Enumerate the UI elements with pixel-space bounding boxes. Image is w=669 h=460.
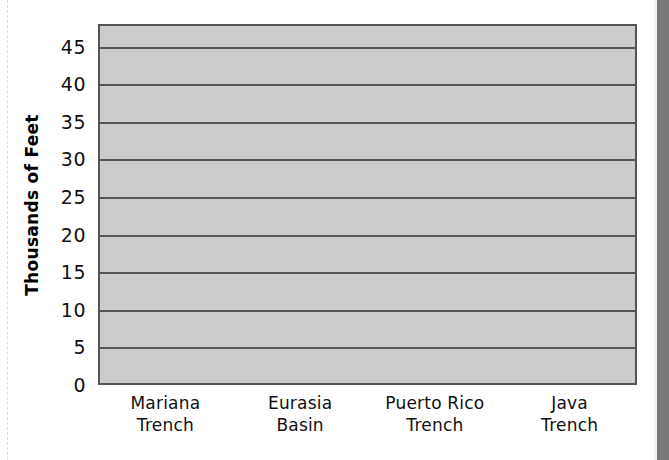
y-axis-tick-label: 15 [0,263,92,282]
y-axis-tick-label: 5 [0,338,92,357]
gridline [100,122,635,124]
x-axis-category-label: MarianaTrench [98,392,233,452]
y-axis-tick-label: 45 [0,37,92,56]
gridline [100,310,635,312]
x-axis-category-label: EurasiaBasin [233,392,368,452]
x-axis-category-labels: MarianaTrenchEurasiaBasinPuerto RicoTren… [98,392,637,452]
plot-area[interactable] [98,24,637,385]
y-axis-tick-labels: 051015202530354045 [0,0,92,460]
x-axis-category-label: Puerto RicoTrench [368,392,503,452]
bar-chart: Thousands of Feet 051015202530354045 Mar… [0,0,669,460]
x-axis-category-label-line: Mariana [98,392,233,414]
worksheet-page: Thousands of Feet 051015202530354045 Mar… [0,0,669,460]
gridline [100,235,635,237]
x-axis-category-label-line: Trench [98,414,233,436]
gridline [100,347,635,349]
gridline [100,47,635,49]
x-axis-category-label-line: Trench [368,414,503,436]
gridline [100,197,635,199]
x-axis-category-label-line: Eurasia [233,392,368,414]
y-axis-tick-label: 30 [0,150,92,169]
x-axis-category-label-line: Basin [233,414,368,436]
y-axis-tick-label: 40 [0,75,92,94]
y-axis-tick-label: 35 [0,112,92,131]
x-axis-category-label: JavaTrench [502,392,637,452]
gridline [100,159,635,161]
y-axis-tick-label: 0 [0,376,92,395]
x-axis-category-label-line: Java [502,392,637,414]
y-axis-tick-label: 25 [0,187,92,206]
y-axis-tick-label: 20 [0,225,92,244]
gridline [100,272,635,274]
x-axis-category-label-line: Puerto Rico [368,392,503,414]
y-axis-tick-label: 10 [0,300,92,319]
x-axis-category-label-line: Trench [502,414,637,436]
gridline [100,84,635,86]
